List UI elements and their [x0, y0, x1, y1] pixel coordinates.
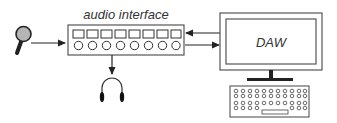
audio-interface-label: audio interface [83, 7, 168, 22]
keyboard-icon [230, 86, 309, 117]
microphone-icon [16, 27, 31, 54]
daw-label: DAW [256, 35, 288, 50]
audio-interface [68, 25, 184, 55]
headphones-icon [100, 78, 124, 102]
signal-flow-diagram: audio interface [0, 0, 337, 123]
